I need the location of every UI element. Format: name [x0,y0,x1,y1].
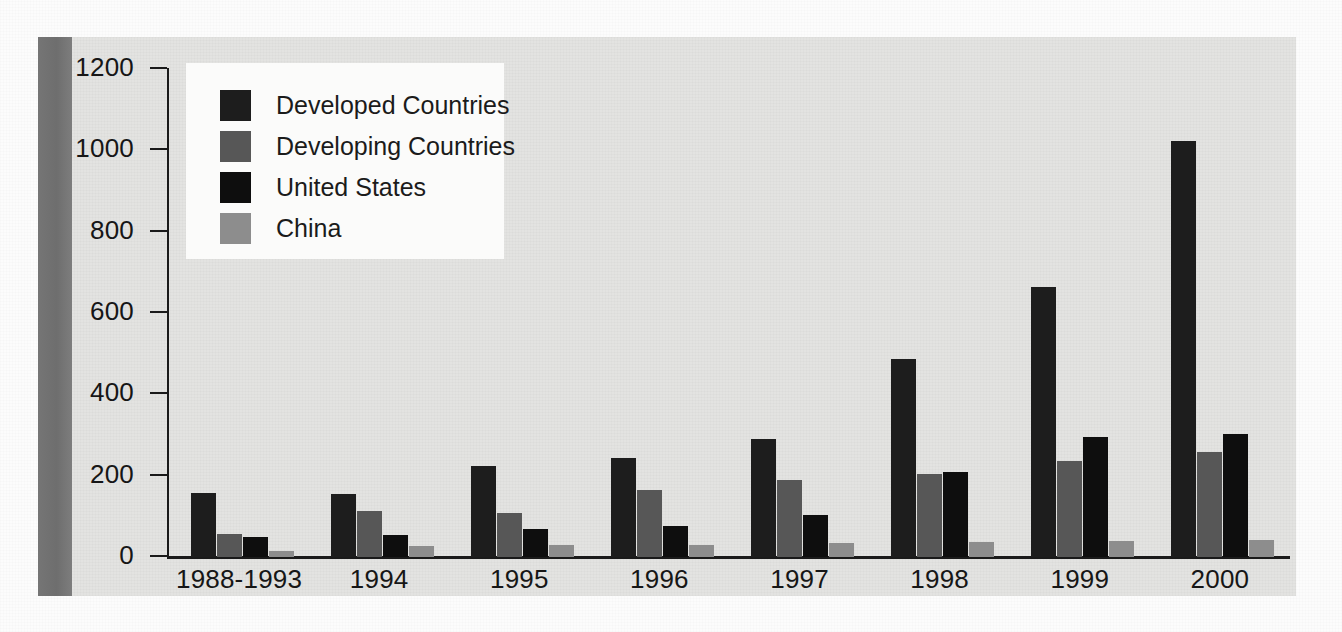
bar [689,545,714,557]
y-axis-tick-label: 200 [14,461,134,487]
bar [1083,437,1108,557]
bar [1109,541,1134,557]
bar [829,543,854,557]
bar [269,551,294,557]
y-axis-tick-label: 1000 [14,135,134,161]
legend-item: Developed Countries [220,85,509,125]
bar [803,515,828,557]
legend-swatch-icon [220,131,251,162]
bar [243,537,268,557]
x-axis-tick-label: 1998 [860,566,1020,592]
x-axis-tick-label: 1996 [579,566,739,592]
legend-item-label: United States [276,175,426,200]
bar [1031,287,1056,557]
y-axis-tick [150,474,167,476]
bar [663,526,688,557]
legend-item-label: Developed Countries [276,93,509,118]
legend-item: Developing Countries [220,126,515,166]
bar [523,529,548,557]
bar [1197,452,1222,557]
bar [1057,461,1082,557]
bar [409,546,434,557]
legend-swatch-icon [220,172,251,203]
y-axis-tick-label: 400 [14,379,134,405]
bar-group [1031,68,1134,557]
bar [549,545,574,557]
bar-group [891,68,994,557]
bar [637,490,662,557]
bar [777,480,802,557]
legend-item: China [220,208,341,248]
bar [191,493,216,557]
x-axis-tick-label: 2000 [1140,566,1300,592]
bar [1171,141,1196,557]
y-axis-tick [150,67,167,69]
x-axis-tick-label: 1997 [720,566,880,592]
chart-legend: Developed CountriesDeveloping CountriesU… [186,63,504,259]
bar [497,513,522,557]
y-axis-tick [150,311,167,313]
y-axis-tick [150,230,167,232]
legend-item-label: Developing Countries [276,134,515,159]
y-axis-tick [150,555,167,557]
x-axis-tick-label: 1995 [439,566,599,592]
bar-group [611,68,714,557]
legend-swatch-icon [220,213,251,244]
legend-item: United States [220,167,426,207]
y-axis-tick-label: 1200 [14,54,134,80]
y-axis-tick-label: 800 [14,217,134,243]
bar [891,359,916,557]
bar [471,466,496,557]
x-axis-tick-label: 1988-1993 [159,566,319,592]
bar [917,474,942,557]
y-axis-tick [150,392,167,394]
bar [751,439,776,557]
legend-item-label: China [276,216,341,241]
bar [1223,434,1248,557]
y-axis-tick [150,148,167,150]
legend-swatch-icon [220,90,251,121]
bar-group [751,68,854,557]
scanned-page: 020040060080010001200 1988-1993199419951… [0,0,1342,632]
bar [943,472,968,557]
x-axis-tick-label: 1994 [299,566,459,592]
bar [357,511,382,557]
bar [969,542,994,557]
bar [383,535,408,557]
bar [331,494,356,557]
x-axis-tick-label: 1999 [1000,566,1160,592]
y-axis-tick-label: 600 [14,298,134,324]
bar-group [1171,68,1274,557]
bar [1249,540,1274,557]
y-axis-tick-label: 0 [14,542,134,568]
bar [611,458,636,557]
bar [217,534,242,557]
